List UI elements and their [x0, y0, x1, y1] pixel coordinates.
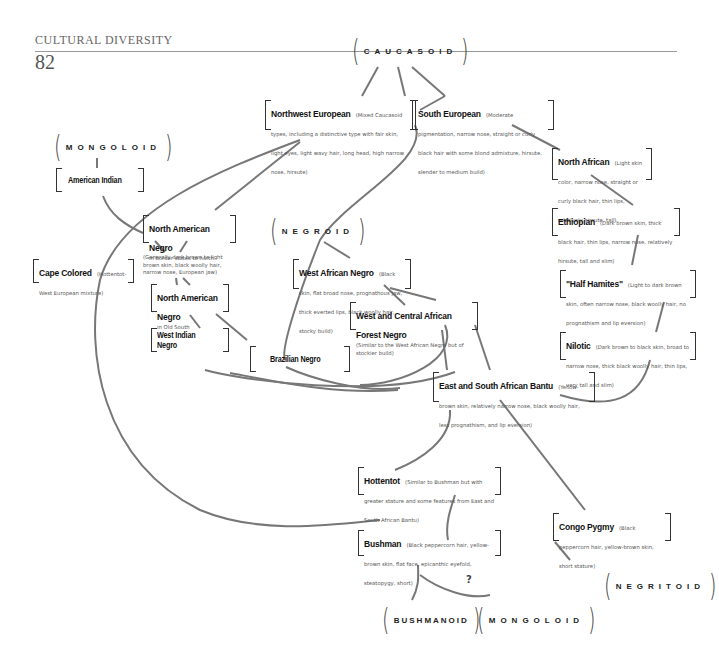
group-mongoloid-bottom: ( MONGOLOID ): [475, 607, 598, 633]
box-south-european: South European (Moderate pigmentation, n…: [412, 100, 554, 130]
box-hottentot: Hottentot (Similar to Bushman but with g…: [358, 467, 501, 495]
close-paren: ): [462, 38, 469, 64]
box-northwest-european: Northwest European (Mixed Caucasoid type…: [265, 100, 416, 130]
group-negritoid: ( NEGRITOID ): [602, 573, 719, 599]
box-east-south-african-bantu: East and South African Bantu (Yellow-bro…: [433, 372, 595, 402]
group-mongoloid-top: ( MONGOLOID ): [52, 134, 175, 160]
box-ethiopian: Ethiopian (Dark brown skin, thick black …: [552, 208, 680, 236]
box-cape-colored: Cape Colored (Hottentot-West European mi…: [33, 259, 134, 283]
box-west-african-negro: West African Negro (Black skin, flat bro…: [293, 259, 411, 289]
box-nilotic: Nilotic (Dark brown to black skin, broad…: [560, 332, 696, 360]
open-paren: (: [352, 38, 359, 64]
note-north-american-negro: (Generally dark brown to light brown ski…: [143, 254, 225, 280]
box-west-central-african-forest-negro: West and Central African Forest Negro (S…: [350, 302, 478, 330]
box-north-african: North African (Light skin color, narrow …: [552, 148, 652, 180]
group-caucasoid: ( CAUCASOID ): [350, 38, 471, 64]
box-congo-pygmy: Congo Pygmy (Black peppercorn hair, yell…: [553, 513, 671, 541]
box-west-indian-negro: West Indian Negro: [151, 328, 229, 352]
box-bushman: Bushman (Black peppercorn hair, yellow-b…: [358, 530, 501, 556]
group-bushmanoid: ( BUSHMANOID ): [380, 607, 483, 633]
uncertain-link-mark: ?: [466, 574, 472, 585]
box-north-american-negro-border: North American Negro in border states to…: [143, 215, 236, 243]
box-brazilian-negro: Brazilian Negro: [250, 346, 350, 372]
box-north-american-negro-south: North American Negro in Old South: [151, 284, 229, 312]
box-american-indian: American Indian: [56, 168, 144, 192]
group-negroid: ( NEGROID ): [268, 218, 368, 244]
box-half-hamites: "Half Hamites" (Light to dark brown skin…: [560, 270, 696, 298]
